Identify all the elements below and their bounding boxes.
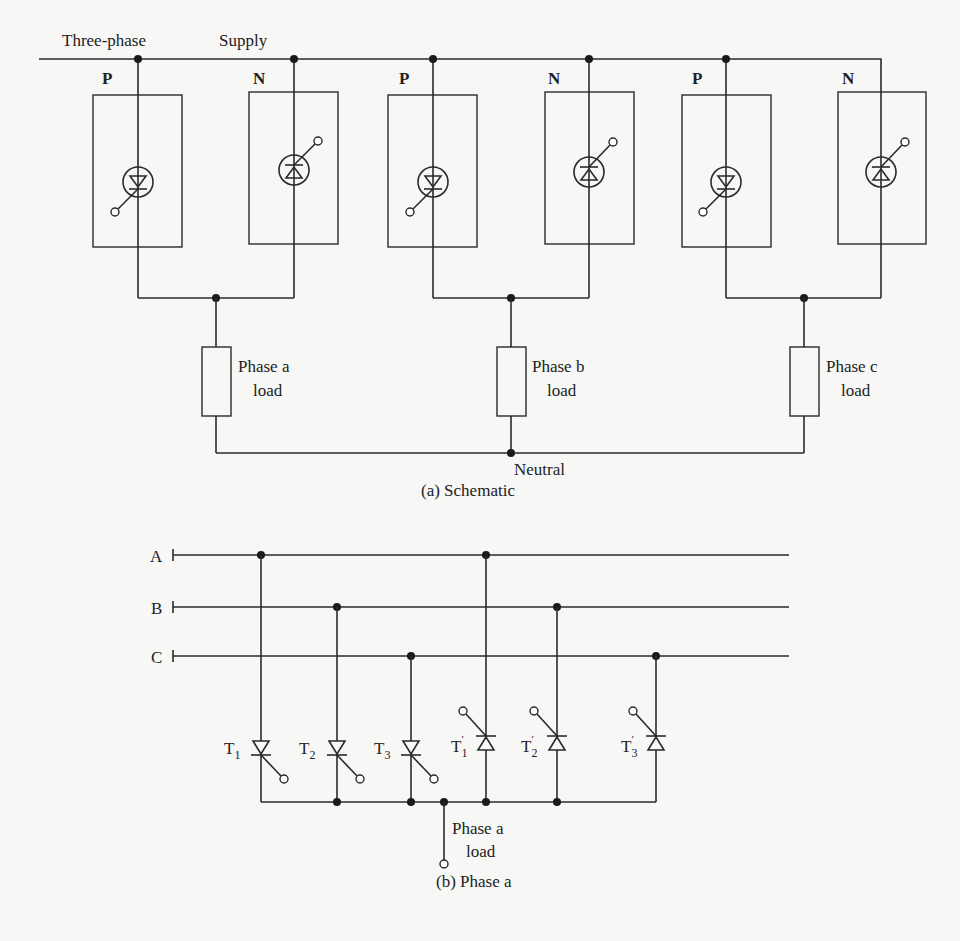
load-label-c-line2: load <box>841 381 871 400</box>
thyristor-t2-prime-icon: T2′ <box>521 603 567 806</box>
ac-voltage-controller-figure: Three-phase Supply P N <box>0 0 960 941</box>
phase-a-group: P N <box>93 55 338 453</box>
phase-b-group: P N <box>388 55 634 453</box>
thyristor-p-icon-a <box>111 167 153 216</box>
load-label-b-line1: Phase b <box>532 357 584 376</box>
junction-dot <box>429 55 437 63</box>
bus-label-b: B <box>151 599 162 618</box>
bus-label-c: C <box>151 648 162 667</box>
thyristor-t3-prime-icon: T3′ <box>621 652 666 802</box>
load-resistor-c <box>790 347 819 416</box>
thyristor-t1-prime-icon: T1′ <box>451 551 496 806</box>
neutral-junction-dot <box>507 449 515 457</box>
t2-label: T2 <box>299 739 315 762</box>
supply-label-supply: Supply <box>219 31 268 50</box>
load-label-b-line2: load <box>547 381 577 400</box>
load-resistor-b <box>497 347 526 416</box>
junction-dot <box>722 55 730 63</box>
phase-a-load-line1: Phase a <box>452 819 504 838</box>
p-label-b: P <box>399 69 409 88</box>
load-label-a-line2: load <box>253 381 283 400</box>
t1-prime-label: T1′ <box>451 733 467 760</box>
thyristor-t2-icon: T2 <box>299 603 364 806</box>
load-label-c-line1: Phase c <box>826 357 878 376</box>
n-label-c: N <box>842 69 855 88</box>
neutral-label: Neutral <box>514 460 565 479</box>
t3-label: T3 <box>374 739 390 762</box>
junction-dot <box>134 55 142 63</box>
thyristor-n-icon-c <box>866 138 909 187</box>
n-label-a: N <box>253 69 266 88</box>
t3-prime-label: T3′ <box>621 733 637 760</box>
t1-label: T1 <box>224 739 240 762</box>
load-label-a-line1: Phase a <box>238 357 290 376</box>
p-label-a: P <box>102 69 112 88</box>
phase-a-load-line2: load <box>466 842 496 861</box>
load-terminal-icon <box>440 860 448 868</box>
thyristor-p-icon-b <box>406 167 448 216</box>
n-module-box-c <box>838 92 926 244</box>
supply-label-three-phase: Three-phase <box>62 31 146 50</box>
thyristor-p-icon-c <box>699 167 741 216</box>
schematic-a: Three-phase Supply P N <box>39 31 926 500</box>
bus-label-a: A <box>150 547 163 566</box>
caption-b: (b) Phase a <box>436 872 512 891</box>
p-label-c: P <box>692 69 702 88</box>
junction-dot <box>585 55 593 63</box>
n-label-b: N <box>548 69 561 88</box>
thyristor-t1-icon: T1 <box>224 551 288 802</box>
caption-a: (a) Schematic <box>421 481 515 500</box>
thyristor-n-icon-a <box>279 137 322 185</box>
phase-a-detail-b: A B C T1 T2 <box>150 547 789 891</box>
junction-dot <box>290 55 298 63</box>
supply-bus-line <box>39 59 881 92</box>
load-resistor-a <box>202 347 231 416</box>
thyristor-t3-icon: T3 <box>374 652 438 806</box>
t2-prime-label: T2′ <box>521 733 537 760</box>
phase-c-group: P N <box>682 55 926 453</box>
thyristor-n-icon-b <box>574 138 617 187</box>
